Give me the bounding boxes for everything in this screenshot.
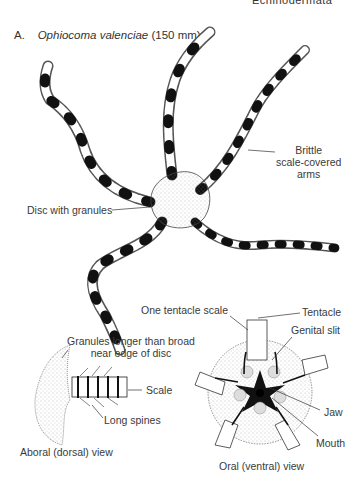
central-disc	[151, 172, 210, 228]
label-disc-granules: Disc with granules	[27, 204, 112, 216]
label-line: scale-covered	[276, 156, 341, 168]
label-line: Granules longer than broad	[67, 335, 195, 347]
label-oral-view: Oral (ventral) view	[219, 460, 304, 472]
label-aboral-view: Aboral (dorsal) view	[20, 446, 113, 458]
label-tentacle: Tentacle	[302, 306, 341, 318]
label-mouth: Mouth	[316, 437, 345, 449]
label-brittle-arms: Brittle scale-covered arms	[276, 144, 341, 180]
label-scale: Scale	[146, 384, 172, 396]
label-tentacle-scale: One tentacle scale	[141, 304, 228, 316]
label-line: near edge of disc	[67, 347, 195, 359]
label-line: Brittle	[276, 144, 341, 156]
label-line: arms	[276, 168, 341, 180]
aboral-view-drawing	[35, 345, 127, 445]
brittle-star-illustration	[0, 0, 362, 490]
label-jaw: Jaw	[324, 406, 343, 418]
oral-view-drawing	[195, 320, 328, 450]
label-genital-slit: Genital slit	[291, 324, 340, 336]
label-long-spines: Long spines	[104, 414, 161, 426]
label-granules: Granules longer than broad near edge of …	[67, 335, 195, 359]
